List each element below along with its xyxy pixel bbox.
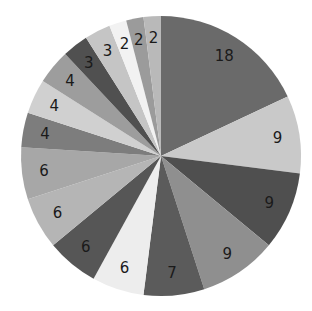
slice-label: 2 xyxy=(134,31,144,49)
slice-label: 9 xyxy=(223,245,233,263)
slice-label: 2 xyxy=(120,35,130,53)
slice-label: 7 xyxy=(167,264,177,282)
slice-label: 2 xyxy=(149,29,159,47)
slice-label: 6 xyxy=(53,204,63,222)
slice-label: 3 xyxy=(84,54,94,72)
pie-chart: 189997666644433222 xyxy=(0,0,312,311)
slice-label: 4 xyxy=(49,97,59,115)
slice-label: 9 xyxy=(265,194,275,212)
slice-label: 6 xyxy=(39,162,49,180)
slice-label: 3 xyxy=(103,42,113,60)
slice-label: 6 xyxy=(120,259,130,277)
slice-label: 4 xyxy=(40,125,50,143)
slice-label: 6 xyxy=(81,238,91,256)
slice-label: 9 xyxy=(273,129,283,147)
pie-slices xyxy=(21,16,301,296)
slice-label: 18 xyxy=(215,47,234,65)
slice-label: 4 xyxy=(65,72,75,90)
